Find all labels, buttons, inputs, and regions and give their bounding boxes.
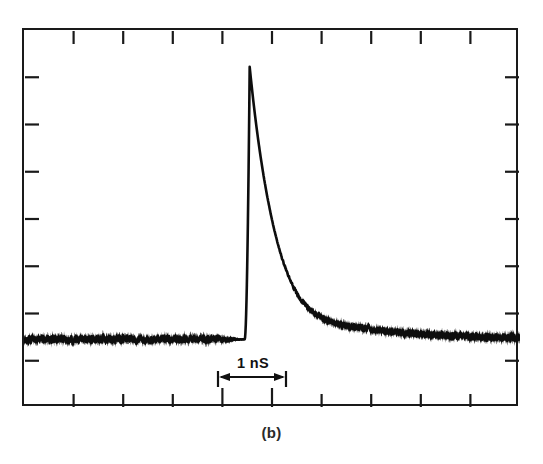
y-axis-ticks-right	[505, 77, 519, 361]
pulse-trace-noise-band	[24, 66, 520, 347]
pulse-trace-group	[24, 66, 520, 347]
scale-bar-annotation: 1 nS	[216, 355, 290, 395]
pulse-trace-line	[24, 67, 520, 344]
arrow-head-left-icon	[219, 373, 230, 381]
y-axis-ticks-left	[25, 77, 39, 361]
oscilloscope-trace-svg	[24, 30, 520, 408]
scale-bar-arrow-icon	[216, 371, 290, 395]
oscilloscope-plot-frame	[22, 28, 518, 406]
arrow-head-right-icon	[274, 373, 285, 381]
figure-caption: (b)	[0, 424, 543, 441]
figure-container: 1 nS (b)	[0, 0, 543, 464]
x-axis-ticks-top	[74, 31, 471, 44]
scale-bar-label: 1 nS	[216, 355, 290, 371]
